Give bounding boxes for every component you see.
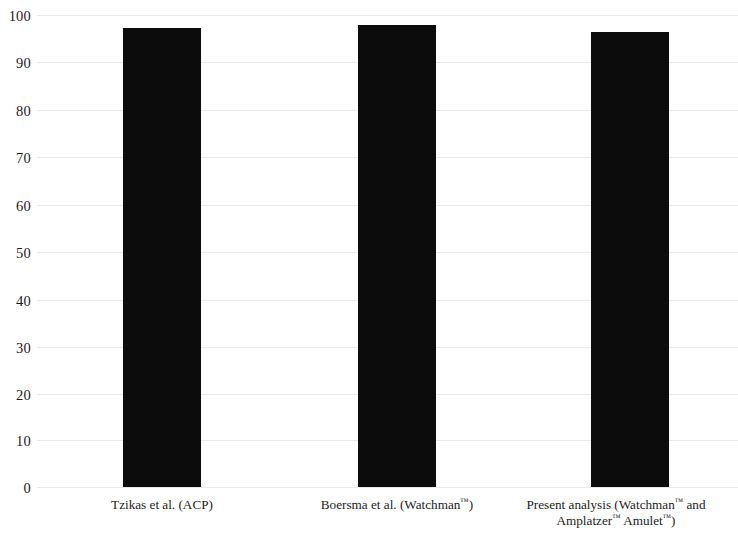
bar-present-analysis[interactable] xyxy=(591,32,669,487)
y-tick-label-80: 80 xyxy=(0,104,31,119)
trademark-icon: ™ xyxy=(612,511,620,521)
trademark-icon: ™ xyxy=(663,511,671,521)
x-tick-label-present-line1-pre: Present analysis (Watchman xyxy=(526,497,674,512)
x-tick-label-tzikas: Tzikas et al. (ACP) xyxy=(62,497,262,513)
x-tick-label-present-line2-post: ) xyxy=(671,513,675,528)
x-tick-label-present-line1-post: and xyxy=(683,497,705,512)
trademark-icon: ™ xyxy=(460,496,468,506)
x-tick-label-present-line2-mid: Amulet xyxy=(621,513,663,528)
x-tick-label-present-analysis: Present analysis (Watchman™ andAmplatzer… xyxy=(505,497,727,528)
y-tick-label-90: 90 xyxy=(0,56,31,71)
trademark-icon: ™ xyxy=(675,496,683,506)
x-tick-label-present-line2-pre: Amplatzer xyxy=(556,513,612,528)
bar-chart: 100 90 80 70 60 50 40 30 20 10 0 Tzikas … xyxy=(0,0,738,533)
y-tick-label-10: 10 xyxy=(0,434,31,449)
y-tick-label-20: 20 xyxy=(0,388,31,403)
y-tick-label-50: 50 xyxy=(0,246,31,261)
x-tick-label-boersma-text: Boersma et al. (Watchman xyxy=(321,497,461,512)
gridline-100 xyxy=(37,15,738,16)
y-tick-label-30: 30 xyxy=(0,341,31,356)
bar-boersma[interactable] xyxy=(358,25,436,487)
y-tick-label-0: 0 xyxy=(0,481,31,496)
x-tick-label-boersma-text-end: ) xyxy=(469,497,473,512)
y-tick-label-100: 100 xyxy=(0,9,31,24)
bar-tzikas[interactable] xyxy=(123,28,201,487)
y-tick-label-60: 60 xyxy=(0,199,31,214)
x-tick-label-boersma: Boersma et al. (Watchman™) xyxy=(295,497,499,513)
plot-area: 100 90 80 70 60 50 40 30 20 10 0 Tzikas … xyxy=(0,0,738,533)
gridline-0 xyxy=(37,487,738,488)
y-tick-label-40: 40 xyxy=(0,294,31,309)
y-tick-label-70: 70 xyxy=(0,151,31,166)
